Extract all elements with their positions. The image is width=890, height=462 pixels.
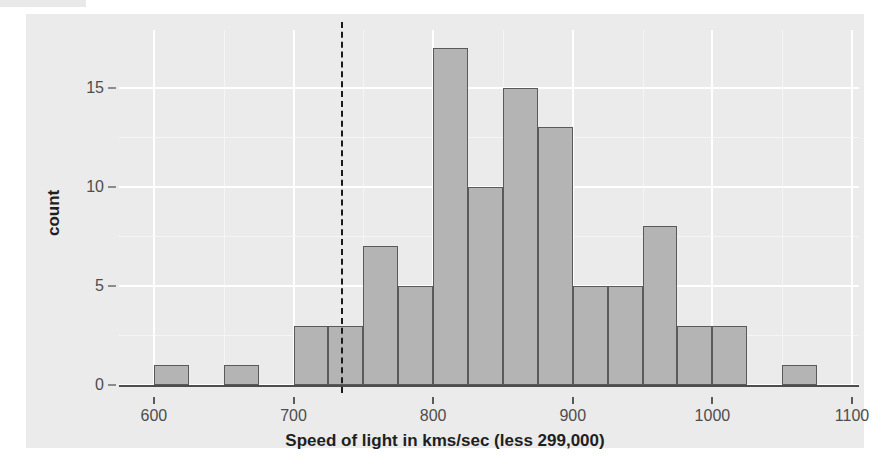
histogram-bar [782, 365, 817, 385]
x-axis-title: Speed of light in kms/sec (less 299,000) [0, 431, 890, 451]
x-tick-mark [293, 397, 295, 404]
x-tick-label: 1000 [695, 407, 731, 425]
x-tick-mark [711, 397, 713, 404]
histogram-bar [677, 326, 712, 385]
histogram-bar [608, 286, 643, 385]
x-axis-line [119, 385, 859, 387]
histogram-bar [643, 226, 678, 385]
x-tick-label: 600 [141, 407, 168, 425]
y-axis-title: count [44, 189, 64, 235]
gridline-minor-x [782, 30, 783, 385]
x-tick-mark [153, 397, 155, 404]
plot-area [119, 30, 859, 385]
gridline-major-y [119, 87, 859, 89]
y-tick-mark [108, 186, 116, 188]
gridline-major-x [153, 30, 155, 385]
histogram-bar [363, 246, 398, 385]
y-tick-label: 15 [86, 79, 104, 97]
histogram-bar [398, 286, 433, 385]
histogram-bar [503, 88, 538, 385]
reference-vline [341, 22, 343, 393]
histogram-bar [712, 326, 747, 385]
histogram-bar [573, 286, 608, 385]
gridline-minor-x [224, 30, 225, 385]
histogram-bar [433, 48, 468, 385]
histogram-bar [328, 326, 363, 385]
gridline-major-x [851, 30, 853, 385]
plot-panel: 60070080090010001100 051015 [26, 14, 864, 448]
figure-top-margin [0, 0, 890, 12]
histogram-bar [538, 127, 573, 385]
histogram-bar [294, 326, 329, 385]
histogram-bar [224, 365, 259, 385]
x-tick-mark [432, 397, 434, 404]
x-tick-label: 900 [559, 407, 586, 425]
y-tick-label: 5 [95, 277, 104, 295]
y-tick-label: 0 [95, 376, 104, 394]
y-tick-label: 10 [86, 178, 104, 196]
histogram-figure: 60070080090010001100 051015 Speed of lig… [0, 0, 890, 462]
histogram-bar [468, 187, 503, 385]
x-tick-label: 800 [420, 407, 447, 425]
histogram-bar [154, 365, 189, 385]
x-tick-label: 700 [280, 407, 307, 425]
scan-artifact [0, 0, 86, 7]
x-tick-label: 1100 [835, 407, 869, 425]
y-tick-mark [108, 384, 116, 386]
y-tick-mark [108, 87, 116, 89]
gridline-minor-y [119, 137, 859, 138]
x-tick-mark [572, 397, 574, 404]
x-tick-mark [851, 397, 853, 404]
y-tick-mark [108, 285, 116, 287]
